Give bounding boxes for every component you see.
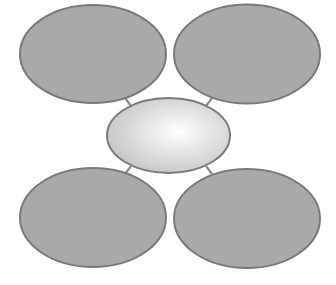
hub-spoke-diagram xyxy=(0,0,336,285)
node-top-left xyxy=(20,5,166,103)
node-top-right xyxy=(174,5,320,104)
connector-top-right xyxy=(206,98,212,106)
node-bottom-left xyxy=(20,168,166,267)
node-bottom-right xyxy=(174,169,320,268)
ellipse-top-left xyxy=(20,5,166,103)
ellipse-top-right xyxy=(174,5,320,104)
connector-bottom-right xyxy=(206,166,212,174)
ellipse-center xyxy=(107,98,230,173)
ellipse-bottom-right xyxy=(174,169,320,268)
node-center xyxy=(107,98,230,173)
connector-top-left xyxy=(125,98,131,106)
ellipse-bottom-left xyxy=(20,168,166,267)
